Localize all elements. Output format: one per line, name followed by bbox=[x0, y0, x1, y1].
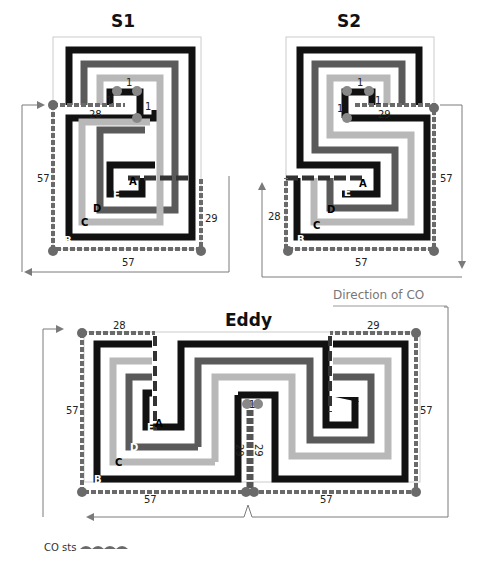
dim-bottom: 57 bbox=[355, 257, 368, 268]
row-band-light-grey bbox=[82, 78, 160, 222]
dim-right: 57 bbox=[420, 405, 433, 416]
dim-left: 57 bbox=[66, 405, 79, 416]
dim-inner-left: 1 bbox=[106, 95, 112, 106]
row-label-e: E bbox=[113, 189, 120, 200]
dim-top: 29 bbox=[378, 109, 391, 120]
corner-dot bbox=[132, 86, 142, 96]
dim-top-right: 29 bbox=[367, 320, 380, 331]
panel-title-eddy: Eddy bbox=[225, 310, 272, 330]
row-label-b: B bbox=[64, 235, 72, 246]
row-label-c: C bbox=[313, 220, 320, 231]
row-label-b: B bbox=[297, 234, 305, 245]
row-label-a: A bbox=[359, 178, 367, 189]
corner-dot bbox=[112, 86, 122, 96]
dim-inner-top: 1 bbox=[126, 77, 132, 88]
row-label-b: B bbox=[94, 474, 102, 485]
direction-arrow bbox=[22, 105, 43, 272]
row-label-d: D bbox=[93, 203, 101, 214]
dim-top-left: 28 bbox=[113, 320, 126, 331]
dim-center-right: 29 bbox=[253, 444, 264, 457]
dim-top: 28 bbox=[89, 109, 102, 120]
direction-arrow bbox=[43, 329, 62, 517]
legend-label: CO sts bbox=[44, 542, 76, 553]
dim-bottom-left: 57 bbox=[144, 494, 157, 505]
direction-label: Direction of CO bbox=[333, 288, 424, 302]
row-label-e: E bbox=[147, 422, 154, 433]
row-label-c: C bbox=[115, 457, 122, 468]
dim-left: 57 bbox=[37, 173, 50, 184]
row-label-c: C bbox=[81, 217, 88, 228]
dim-bottom: 57 bbox=[122, 257, 135, 268]
row-label-a: A bbox=[155, 418, 163, 429]
knitting-diagram: S1 28 57 29 57 1 1 1 A E D C B S2 bbox=[0, 0, 482, 571]
dim-center-left: 29 bbox=[234, 444, 245, 457]
direction-arrow bbox=[440, 105, 462, 267]
panel-title-s2: S2 bbox=[337, 11, 361, 31]
panel-s2: S2 29 28 57 57 1 1 1 A E D C B Direction… bbox=[262, 11, 462, 306]
row-label-e: E bbox=[344, 187, 351, 198]
dim-inner-top: 1 bbox=[357, 77, 363, 88]
panel-s1: S1 28 57 29 57 1 1 1 A E D C B bbox=[22, 11, 229, 272]
legend: CO sts bbox=[44, 542, 128, 553]
dim-inner-left: 1 bbox=[337, 103, 343, 114]
dim-right: 29 bbox=[205, 213, 218, 224]
dim-left: 28 bbox=[268, 211, 281, 222]
panel-title-s1: S1 bbox=[111, 11, 135, 31]
co-sts-legend-icon bbox=[80, 546, 128, 549]
panel-frame bbox=[53, 37, 201, 249]
direction-arrow bbox=[88, 307, 448, 517]
dim-inner-right: 1 bbox=[145, 101, 151, 112]
row-label-d: D bbox=[327, 204, 335, 215]
dim-center-top: 1 bbox=[249, 399, 255, 410]
corner-dot bbox=[132, 113, 142, 123]
panel-eddy: Eddy 28 29 57 57 57 57 1 29 29 A E D C B bbox=[43, 307, 448, 517]
dim-inner-right: 1 bbox=[375, 95, 381, 106]
row-band-dark-grey bbox=[129, 377, 198, 447]
dim-right: 57 bbox=[440, 173, 453, 184]
row-label-a: A bbox=[129, 176, 137, 187]
row-label-d: D bbox=[130, 442, 138, 453]
dim-bottom-right: 57 bbox=[320, 494, 333, 505]
